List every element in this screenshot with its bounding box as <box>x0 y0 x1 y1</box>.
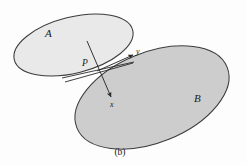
axis-y-label: y <box>135 47 140 56</box>
region-b-label: B <box>194 92 201 104</box>
figure-canvas: A B P x y (b) <box>0 0 247 165</box>
figure-container: A B P x y (b) <box>0 0 247 165</box>
tangency-point-label: P <box>81 58 88 68</box>
axis-x-label: x <box>109 100 114 109</box>
region-a-label: A <box>44 27 52 39</box>
figure-caption: (b) <box>114 147 125 158</box>
